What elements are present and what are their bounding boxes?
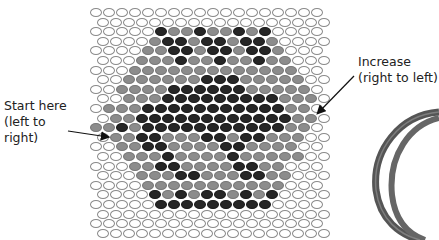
- annotation-overlay: [0, 0, 439, 240]
- increase-arrow-icon: [318, 76, 354, 113]
- start-arrow-icon: [68, 131, 108, 137]
- finished-bracelet-icon: [376, 112, 439, 240]
